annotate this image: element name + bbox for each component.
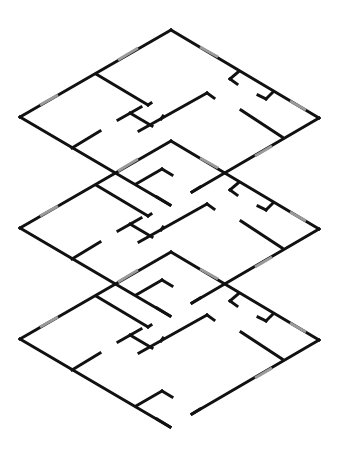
wall-segment [192, 187, 200, 192]
wall-segment [139, 204, 207, 242]
wall-segment [161, 116, 163, 119]
wall-segment [148, 214, 151, 216]
wall-segment [241, 221, 282, 248]
wall-segment [96, 74, 148, 105]
window-segment [255, 146, 272, 156]
wall-segment [136, 391, 162, 406]
wall-segment [148, 325, 151, 327]
wall-segment [258, 95, 266, 99]
wall-segment [96, 296, 148, 327]
window-segment [40, 206, 58, 216]
wall-segment [230, 183, 238, 190]
wall-segment [20, 117, 170, 205]
wall-segment [157, 419, 170, 427]
wall-segment [162, 391, 172, 397]
floor-plan-middle [20, 141, 319, 316]
window-segment [118, 48, 138, 60]
wall-segment [72, 242, 100, 259]
window-segment [290, 101, 306, 110]
window-segment [40, 95, 58, 105]
wall-segment [230, 190, 237, 195]
wall-segment [20, 339, 170, 427]
wall-segment [139, 93, 207, 131]
wall-segment [136, 169, 162, 184]
wall-segment [230, 72, 238, 79]
wall-segment [241, 332, 282, 359]
window-segment [255, 257, 272, 267]
window-segment [118, 270, 138, 282]
window-segment [200, 269, 218, 279]
floor-plan-bottom [20, 252, 319, 427]
window-segment [290, 323, 306, 332]
wall-segment [96, 185, 148, 216]
wall-segment [20, 228, 170, 316]
wall-segment [157, 197, 170, 205]
window-segment [40, 317, 58, 327]
wall-segment [139, 315, 207, 353]
wall-segment [136, 280, 162, 295]
wall-segment [192, 298, 200, 303]
wall-segment [207, 315, 214, 320]
wall-segment [162, 280, 172, 286]
stacked-floor-plans-canvas [0, 0, 340, 456]
wall-segment [72, 353, 100, 370]
wall-segment [157, 308, 170, 316]
wall-segment [230, 301, 237, 306]
wall-segment [162, 169, 172, 175]
window-segment [290, 212, 306, 221]
floor-plan-top [20, 30, 319, 205]
wall-segment [230, 294, 238, 301]
wall-segment [148, 103, 151, 105]
window-segment [255, 368, 272, 378]
wall-segment [258, 206, 266, 210]
window-segment [200, 47, 218, 57]
wall-segment [161, 227, 163, 230]
wall-segment [241, 110, 282, 137]
wall-segment [258, 317, 266, 321]
window-segment [118, 159, 138, 171]
floor-plan-diagram: Stacked isometric floor plans [0, 0, 340, 456]
wall-segment [207, 204, 214, 209]
window-segment [200, 158, 218, 168]
wall-segment [207, 93, 214, 98]
wall-segment [192, 409, 200, 414]
wall-segment [72, 131, 100, 148]
wall-segment [230, 79, 237, 84]
wall-segment [161, 338, 163, 341]
